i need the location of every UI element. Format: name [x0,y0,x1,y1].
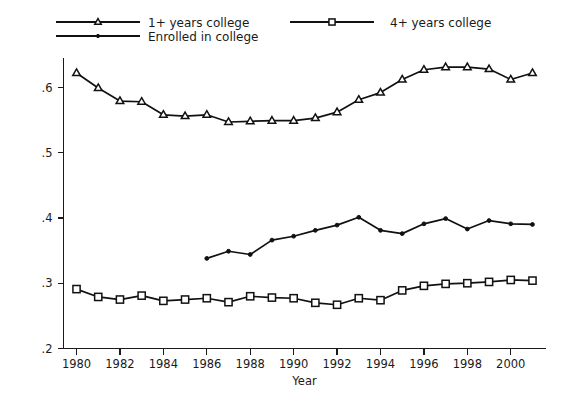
data-point-marker [292,234,296,238]
data-point-marker [333,301,340,308]
data-point-marker [333,108,341,115]
data-point-marker [160,111,168,118]
data-point-marker [444,217,448,221]
x-tick-label: 1984 [149,357,178,371]
data-point-marker [465,227,469,231]
x-tick-label: 1986 [192,357,221,371]
data-point-marker [442,63,450,70]
data-point-marker [116,296,123,303]
data-point-marker [160,297,167,304]
series-polyline [77,67,533,122]
data-point-marker [268,294,275,301]
x-tick-label: 1996 [409,357,438,371]
x-tick-label: 1992 [322,357,351,371]
data-point-marker [138,292,145,299]
data-point-marker [485,278,492,285]
data-point-marker [507,276,514,283]
data-point-marker [420,66,428,73]
data-point-marker [357,215,361,219]
data-point-marker [203,295,210,302]
data-point-marker [312,299,319,306]
x-axis-title: Year [291,374,317,388]
line-chart: .2.3.4.5.6198019821984198619881990199219… [0,0,572,408]
data-point-marker [329,19,335,25]
data-point-marker [116,97,124,104]
chart-series [73,63,537,308]
x-tick-label: 1980 [62,357,91,371]
data-point-marker [95,293,102,300]
data-point-marker [487,219,491,223]
data-point-marker [400,232,404,236]
x-tick-label: 1994 [366,357,395,371]
legend-label: 4+ years college [390,16,491,30]
data-point-marker [181,296,188,303]
data-point-marker [203,111,211,118]
y-tick-label: .3 [42,276,53,290]
data-point-marker [268,117,276,124]
legend-entry-enrolled-in-college: Enrolled in college [56,30,258,44]
data-point-marker [398,75,406,82]
data-point-marker [73,69,81,76]
data-point-marker [313,228,317,232]
data-point-marker [73,285,80,292]
chart-tick-labels: .2.3.4.5.6198019821984198619881990199219… [42,81,526,388]
data-point-marker [181,112,189,119]
data-point-marker [290,117,298,124]
data-point-marker [247,293,254,300]
data-point-marker [399,287,406,294]
data-point-marker [225,118,233,125]
data-point-marker [464,63,472,70]
data-point-marker [529,69,537,76]
data-point-marker [138,98,146,105]
y-tick-label: .2 [42,342,53,356]
x-tick-label: 2000 [496,357,525,371]
series-enrolled-in-college [205,215,534,260]
data-point-marker [355,295,362,302]
data-point-marker [442,280,449,287]
data-point-marker [355,96,363,103]
data-point-marker [420,282,427,289]
data-point-marker [95,19,101,25]
legend-entry-1-years-college: 1+ years college [56,16,249,30]
data-point-marker [377,89,385,96]
data-point-marker [248,253,252,257]
data-point-marker [529,277,536,284]
data-point-marker [377,297,384,304]
legend-label: 1+ years college [148,16,249,30]
series-1-years-college [73,63,537,124]
data-point-marker [270,238,274,242]
data-point-marker [464,280,471,287]
y-tick-label: .4 [42,211,53,225]
x-tick-label: 1998 [453,357,482,371]
chart-container: .2.3.4.5.6198019821984198619881990199219… [0,0,572,408]
data-point-marker [225,299,232,306]
chart-axes [58,58,546,355]
data-point-marker [379,228,383,232]
x-tick-label: 1990 [279,357,308,371]
data-point-marker [205,257,209,261]
data-point-marker [422,222,426,226]
x-tick-label: 1988 [236,357,265,371]
series-4-years-college [73,276,536,308]
data-point-marker [94,84,102,91]
data-point-marker [485,65,493,72]
data-point-marker [335,223,339,227]
data-point-marker [531,223,535,227]
chart-legend: 1+ years collegeEnrolled in college4+ ye… [56,16,491,44]
legend-label: Enrolled in college [148,30,258,44]
series-polyline [207,217,533,258]
data-point-marker [509,222,513,226]
data-point-marker [96,34,99,37]
data-point-marker [246,117,254,124]
y-tick-label: .6 [42,81,53,95]
data-point-marker [312,114,320,121]
data-point-marker [507,75,515,82]
data-point-marker [290,295,297,302]
y-tick-label: .5 [42,146,53,160]
x-tick-label: 1982 [105,357,134,371]
legend-entry-4-years-college: 4+ years college [290,16,491,30]
data-point-marker [227,249,231,253]
